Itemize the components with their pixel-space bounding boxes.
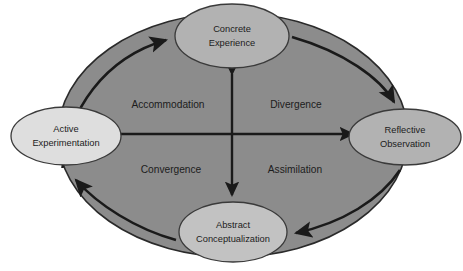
node-concrete-experience-line1: Concrete (213, 24, 251, 34)
node-reflective-observation-shape (349, 109, 461, 165)
experiential-learning-cycle-diagram: Accommodation Divergence Convergence Ass… (0, 0, 463, 271)
node-abstract-conceptualization-shape (179, 202, 287, 262)
node-reflective-observation-line1: Reflective (385, 125, 426, 135)
quadrant-label-assimilation: Assimilation (268, 164, 322, 175)
node-abstract-conceptualization-line1: Abstract (216, 220, 251, 230)
node-concrete-experience-shape (175, 4, 289, 68)
node-reflective-observation[interactable]: Reflective Observation (349, 109, 461, 165)
node-reflective-observation-line2: Observation (380, 139, 430, 149)
diagram-canvas: Accommodation Divergence Convergence Ass… (0, 0, 463, 271)
quadrant-label-divergence: Divergence (270, 99, 322, 110)
quadrant-label-convergence: Convergence (141, 164, 202, 175)
quadrant-label-accommodation: Accommodation (131, 99, 204, 110)
node-active-experimentation-shape (11, 107, 121, 165)
node-active-experimentation-line2: Experimentation (32, 138, 99, 148)
node-concrete-experience[interactable]: Concrete Experience (175, 4, 289, 68)
node-concrete-experience-line2: Experience (209, 38, 256, 48)
node-active-experimentation[interactable]: Active Experimentation (11, 107, 121, 165)
node-abstract-conceptualization[interactable]: Abstract Conceptualization (179, 202, 287, 262)
node-abstract-conceptualization-line2: Conceptualization (196, 234, 270, 244)
node-active-experimentation-line1: Active (53, 124, 78, 134)
